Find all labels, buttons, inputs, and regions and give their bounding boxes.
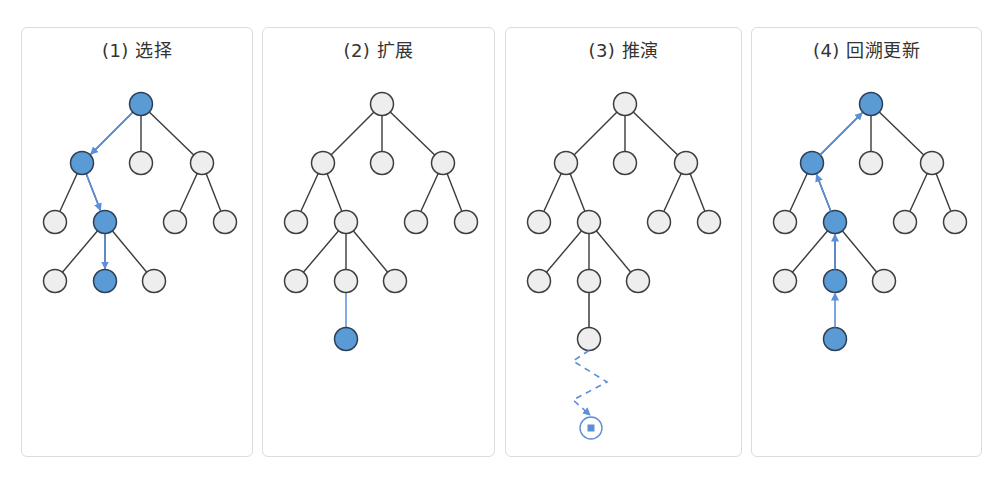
tree-node-icon — [335, 211, 358, 234]
tree-rollout — [506, 28, 743, 458]
tree-edge — [323, 104, 382, 163]
tree-node-icon — [455, 211, 478, 234]
tree-node-icon — [143, 270, 166, 293]
tree-node-icon — [371, 93, 394, 116]
tree-nodes — [285, 93, 478, 351]
terminal-square-icon — [588, 425, 595, 432]
panel-expand: (2) 扩展 — [262, 27, 495, 457]
tree-node-icon — [873, 270, 896, 293]
tree-node-icon — [405, 211, 428, 234]
tree-nodes — [44, 93, 237, 293]
active-node-icon — [824, 270, 847, 293]
active-node-icon — [824, 328, 847, 351]
tree-node-icon — [285, 211, 308, 234]
tree-node-icon — [384, 270, 407, 293]
tree-edges — [539, 104, 709, 339]
tree-node-icon — [894, 211, 917, 234]
rollout-path-icon — [573, 351, 607, 416]
tree-node-icon — [774, 270, 797, 293]
tree-edge — [382, 104, 443, 163]
tree-node-icon — [335, 270, 358, 293]
path-arrows — [87, 113, 133, 269]
tree-edges — [785, 104, 955, 281]
tree-node-icon — [555, 152, 578, 175]
tree-node-icon — [44, 211, 67, 234]
tree-edge — [566, 104, 625, 163]
tree-node-icon — [578, 328, 601, 351]
active-node-icon — [335, 328, 358, 351]
tree-node-icon — [614, 152, 637, 175]
panel-rollout: (3) 推演 — [505, 27, 742, 457]
tree-nodes — [774, 93, 967, 351]
tree-node-icon — [774, 211, 797, 234]
tree-node-icon — [191, 152, 214, 175]
tree-node-icon — [627, 270, 650, 293]
tree-node-icon — [578, 211, 601, 234]
tree-select — [22, 28, 254, 458]
tree-node-icon — [130, 152, 153, 175]
tree-edges — [296, 104, 466, 339]
active-node-icon — [130, 93, 153, 116]
active-node-icon — [824, 211, 847, 234]
active-node-icon — [71, 152, 94, 175]
tree-node-icon — [921, 152, 944, 175]
tree-node-icon — [675, 152, 698, 175]
tree-edge — [625, 104, 686, 163]
selection-arrow-icon — [91, 113, 132, 154]
tree-node-icon — [214, 211, 237, 234]
tree-node-icon — [528, 211, 551, 234]
tree-node-icon — [371, 152, 394, 175]
tree-node-icon — [648, 211, 671, 234]
active-node-icon — [860, 93, 883, 116]
active-node-icon — [94, 211, 117, 234]
backprop-arrow-icon — [820, 113, 862, 155]
tree-edges — [55, 104, 225, 281]
tree-node-icon — [285, 270, 308, 293]
tree-node-icon — [944, 211, 967, 234]
panel-select: (1) 选择 — [21, 27, 253, 457]
tree-node-icon — [860, 152, 883, 175]
tree-node-icon — [164, 211, 187, 234]
backprop-arrow-icon — [817, 175, 831, 212]
tree-nodes — [528, 93, 721, 351]
tree-edge — [871, 104, 932, 163]
tree-node-icon — [312, 152, 335, 175]
tree-node-icon — [614, 93, 637, 116]
tree-node-icon — [698, 211, 721, 234]
tree-node-icon — [432, 152, 455, 175]
selection-arrow-icon — [87, 175, 101, 211]
tree-backprop — [752, 28, 983, 458]
tree-node-icon — [528, 270, 551, 293]
tree-expand — [263, 28, 496, 458]
active-node-icon — [801, 152, 824, 175]
panel-backprop: (4) 回溯更新 — [751, 27, 982, 457]
active-node-icon — [94, 270, 117, 293]
tree-node-icon — [44, 270, 67, 293]
tree-node-icon — [578, 270, 601, 293]
tree-edge — [141, 104, 202, 163]
